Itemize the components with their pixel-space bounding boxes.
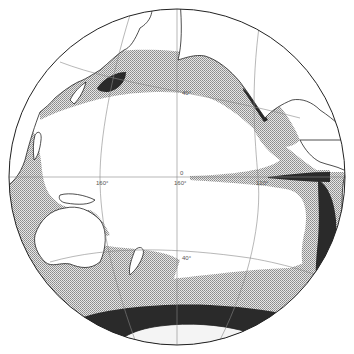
label-lon-west: 160°: [96, 180, 109, 186]
label-40s: 40°: [182, 255, 192, 261]
label-lon-center: 160°: [174, 180, 187, 186]
globe-content: [0, 0, 354, 354]
label-lon-east: 120°: [256, 180, 269, 186]
pacific-ocean-map: 40° 0 40° 160° 160° 120°: [0, 0, 354, 354]
label-40n: 40°: [182, 90, 192, 96]
